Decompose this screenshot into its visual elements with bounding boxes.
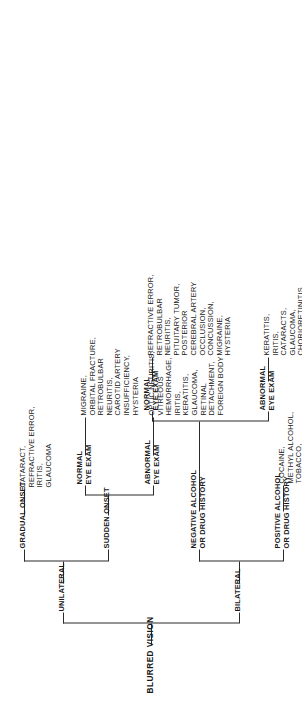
connector-to-bilateral bbox=[239, 612, 240, 623]
node-bilateral-abnormal-eye-exam-label: ABNORMAL EYE EXAM bbox=[259, 365, 276, 410]
node-negative-history-label: NEGATIVE ALCOHOL OR DRUG HISTORY bbox=[190, 469, 207, 548]
flowchart-canvas: BLURRED VISION UNILATERAL BILATERAL GRAD… bbox=[0, 0, 302, 701]
list-sudden-abnormal-diagnoses: OPTIC NEURITIS, VITREOUS HEMORRHAGE, IRI… bbox=[148, 351, 225, 415]
list-bilateral-abnormal-diagnoses: KERATITIS, IRITIS, CATARACTS, GLAUCOMA, … bbox=[263, 284, 302, 355]
connector-negative-split bbox=[152, 420, 268, 421]
list-gradual-onset-diagnoses: CATARACT, REFRACTIVE ERROR, IRITIS, GLAU… bbox=[19, 406, 53, 487]
list-bilateral-normal-diagnoses: REFRACTIVE ERROR, RETROBULBAR NEURITIS, … bbox=[147, 274, 233, 355]
connector-unilateral-split bbox=[24, 560, 108, 561]
connector-to-gradual-onset bbox=[24, 549, 25, 561]
node-sudden-normal-eye-exam-label: NORMAL EYE EXAM bbox=[76, 444, 93, 484]
node-gradual-onset-label: GRADUAL ONSET bbox=[19, 481, 28, 548]
connector-bilateral-split bbox=[199, 560, 283, 561]
diagram-frame: BLURRED VISION UNILATERAL BILATERAL GRAD… bbox=[0, 0, 302, 701]
node-unilateral-label: UNILATERAL bbox=[58, 562, 67, 611]
connector-sudden-split bbox=[85, 494, 153, 495]
connector-to-unilateral bbox=[63, 612, 64, 623]
list-sudden-normal-diagnoses: MIGRAINE, ORBITAL FRACTURE, RETROBULBAR … bbox=[80, 336, 140, 415]
node-positive-history-label: POSITIVE ALCOHOL OR DRUG HISTORY bbox=[274, 472, 291, 548]
connector-to-sudden-abnormal bbox=[153, 485, 154, 495]
node-sudden-abnormal-eye-exam-label: ABNORMAL EYE EXAM bbox=[144, 439, 161, 484]
connector-to-sudden-onset bbox=[108, 549, 109, 561]
node-bilateral-label: BILATERAL bbox=[234, 568, 243, 611]
connector-to-sudden-normal bbox=[85, 485, 86, 495]
connector-to-bilateral-abnormal bbox=[268, 411, 269, 421]
list-positive-history-diagnoses: COCAINE, METHYL ALCOHOL, TOBACCO, BARBIT… bbox=[278, 411, 302, 483]
connector-to-positive-history bbox=[283, 549, 284, 561]
root-label: BLURRED VISION bbox=[146, 616, 155, 693]
node-sudden-onset-label: SUDDEN ONSET bbox=[103, 487, 112, 548]
connector-to-negative-history bbox=[199, 549, 200, 561]
